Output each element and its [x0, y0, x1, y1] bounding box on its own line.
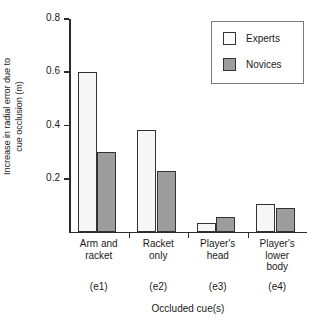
category-code-label: (e3)	[188, 281, 248, 292]
bar-novices-e3	[216, 217, 235, 232]
y-tick-label: 0.6	[46, 65, 60, 76]
legend-label-experts: Experts	[246, 33, 280, 44]
x-tick-mark	[248, 232, 249, 238]
category-label: Arm and racket	[69, 238, 129, 261]
bar-novices-e4	[276, 208, 295, 232]
bar-experts-e3	[197, 223, 216, 232]
legend-item-novices: Novices	[223, 58, 282, 71]
bar-experts-e1	[78, 72, 97, 232]
category-label: Player's head	[188, 238, 248, 261]
y-tick-label: 0.2	[46, 172, 60, 183]
bar-chart-figure: Increase in radial error due to cue occl…	[0, 0, 318, 327]
legend-swatch-novices	[223, 58, 236, 71]
legend-label-novices: Novices	[246, 59, 282, 70]
bar-novices-e1	[97, 152, 116, 232]
category-code-label: (e4)	[248, 281, 308, 292]
legend-swatch-experts	[223, 32, 236, 45]
bar-experts-e4	[256, 204, 275, 232]
legend-item-experts: Experts	[223, 32, 280, 45]
legend: Experts Novices	[211, 21, 304, 84]
category-label: Player's lower body	[248, 238, 308, 273]
y-tick-label: 0.8	[46, 12, 60, 23]
y-axis-title-line-2: cue occlusion (m)	[13, 58, 25, 175]
y-tick-label: 0.4	[46, 119, 60, 130]
bar-novices-e2	[157, 171, 176, 232]
y-axis-title-line-1: Increase in radial error due to	[2, 58, 14, 175]
x-axis-title: Occluded cue(s)	[69, 303, 307, 314]
category-label: Racket only	[129, 238, 189, 261]
category-code-label: (e2)	[129, 281, 189, 292]
y-axis-title: Increase in radial error due to cue occl…	[0, 0, 26, 232]
x-tick-mark	[188, 232, 189, 238]
x-tick-mark	[129, 232, 130, 238]
category-code-label: (e1)	[69, 281, 129, 292]
bar-experts-e2	[137, 130, 156, 233]
